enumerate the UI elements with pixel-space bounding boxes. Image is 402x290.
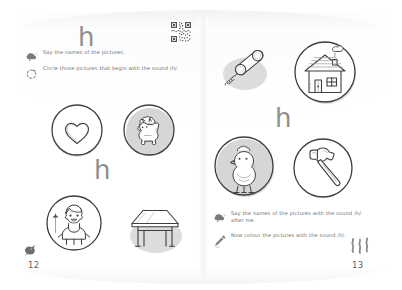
picture-telephone[interactable] (214, 40, 278, 102)
circle-pencil-icon (25, 66, 38, 79)
speech-bubble-icon (213, 211, 226, 224)
picture-heart[interactable] (44, 98, 110, 164)
right-instruction-1: Say the names of the pictures with the s… (213, 210, 369, 225)
right-watermark-letter: h (275, 105, 291, 131)
left-instruction-2: Circle those pictures that begin with th… (25, 65, 179, 79)
qr-code-icon[interactable] (170, 21, 192, 47)
left-page-number: 12 (28, 260, 40, 270)
picture-house[interactable] (287, 34, 363, 110)
left-heading-letter: h (78, 24, 94, 50)
speech-bubble-icon (25, 50, 38, 63)
colour-crayon-icon (213, 233, 226, 246)
picture-hen[interactable] (208, 130, 282, 204)
picture-table[interactable] (122, 202, 188, 256)
right-page: h (204, 12, 386, 280)
worksheet-spread: h (0, 0, 402, 290)
left-page: h (18, 12, 202, 280)
left-instruction-2-text: Circle those pictures that begin with th… (43, 65, 179, 72)
right-instruction-2: Now colour the pictures with the sound /… (213, 232, 346, 246)
picture-boy[interactable] (38, 187, 110, 259)
right-page-number: 13 (352, 260, 364, 270)
picture-hammer[interactable] (286, 130, 360, 204)
bird-icon (22, 241, 38, 260)
right-instruction-2-text: Now colour the pictures with the sound /… (231, 232, 346, 239)
left-instruction-1: Say the names of the pictures. (25, 49, 125, 63)
steam-squiggle-icon (348, 230, 374, 260)
right-instruction-1-text: Say the names of the pictures with the s… (231, 210, 369, 225)
picture-horse[interactable] (116, 98, 182, 164)
left-instruction-1-text: Say the names of the pictures. (43, 49, 125, 56)
